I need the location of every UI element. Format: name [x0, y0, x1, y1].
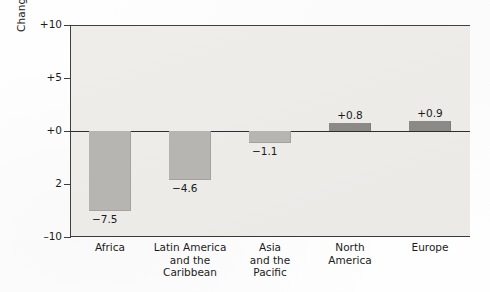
- bar-value-label: +0.8: [320, 109, 380, 121]
- bar: [249, 131, 291, 143]
- bar: [409, 121, 451, 131]
- y-tick-mark: [64, 237, 71, 238]
- category-label: Latin America and the Caribbean: [150, 241, 230, 279]
- forested-land-change-bar-chart: Change in forested land, 1990–2000 (perc…: [0, 0, 490, 292]
- y-tick-label: –10: [22, 230, 62, 242]
- category-label: Africa: [70, 241, 150, 254]
- x-axis-line: [70, 236, 470, 237]
- bar-value-label: −4.6: [172, 182, 232, 194]
- bar: [89, 131, 131, 211]
- y-tick-label: +5: [22, 71, 62, 83]
- category-label: Europe: [390, 241, 470, 254]
- bar-value-label: +0.9: [400, 107, 460, 119]
- bar-value-label: −7.5: [92, 213, 152, 225]
- bar: [169, 131, 211, 180]
- y-tick-mark: [64, 78, 71, 79]
- category-label: North America: [310, 241, 390, 266]
- y-tick-label: +0: [22, 124, 62, 136]
- y-tick-mark: [64, 25, 71, 26]
- bar-value-label: −1.1: [252, 145, 312, 157]
- category-label: Asia and the Pacific: [230, 241, 310, 279]
- y-tick-label: 2: [22, 177, 62, 189]
- y-tick-mark: [64, 184, 71, 185]
- y-tick-label: +10: [22, 18, 62, 30]
- bar: [329, 123, 371, 131]
